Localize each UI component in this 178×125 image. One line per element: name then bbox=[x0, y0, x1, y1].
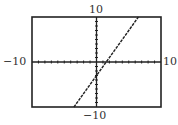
y-max-label: 10 bbox=[89, 4, 103, 15]
y-min-label: −10 bbox=[83, 110, 106, 121]
x-min-label: −10 bbox=[3, 56, 26, 67]
x-max-label: 10 bbox=[163, 56, 177, 67]
plot-area bbox=[0, 0, 178, 125]
